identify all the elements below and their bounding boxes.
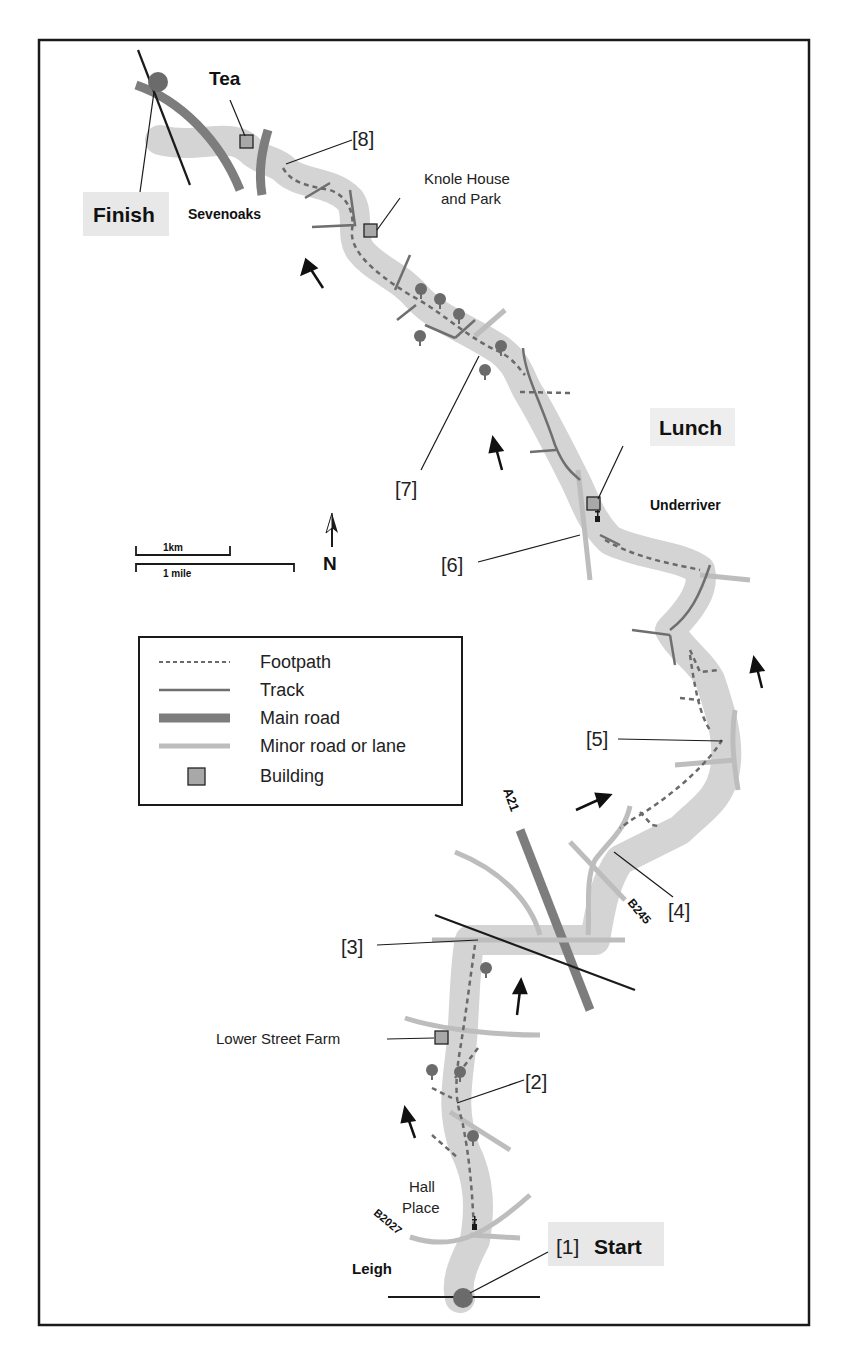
knole-label-line1: Knole House xyxy=(424,170,510,187)
start-label: Start xyxy=(594,1235,642,1258)
start-marker xyxy=(453,1288,473,1308)
building-icon-farm xyxy=(435,1031,448,1044)
waypoint-8: [8] xyxy=(352,128,374,150)
waypoint-7: [7] xyxy=(395,478,417,500)
leigh-label: Leigh xyxy=(352,1260,392,1277)
legend-label: Building xyxy=(260,766,324,786)
waypoint-2: [2] xyxy=(525,1071,547,1093)
scale-km-label: 1km xyxy=(163,542,183,553)
finish-label: Finish xyxy=(93,203,155,226)
start-waypoint-number: [1] xyxy=(556,1235,579,1258)
waypoint-5: [5] xyxy=(586,728,608,750)
legend-label: Main road xyxy=(260,708,340,728)
lunch-label: Lunch xyxy=(659,416,722,439)
legend: Footpath Track Main road Minor road or l… xyxy=(139,637,462,805)
hall-place-label-line1: Hall xyxy=(409,1178,435,1195)
building-icon-knole xyxy=(364,224,377,237)
walking-route-map: Finish Tea Sevenoaks Knole House and Par… xyxy=(0,0,846,1362)
knole-label-line2: and Park xyxy=(441,190,502,207)
legend-label: Track xyxy=(260,680,305,700)
waypoint-3: [3] xyxy=(341,936,363,958)
waypoint-6: [6] xyxy=(441,554,463,576)
legend-label: Footpath xyxy=(260,652,331,672)
hall-place-label-line2: Place xyxy=(402,1199,440,1216)
waypoint-4: [4] xyxy=(668,900,690,922)
finish-marker xyxy=(148,72,168,92)
underriver-label: Underriver xyxy=(650,497,721,513)
legend-label: Minor road or lane xyxy=(260,736,406,756)
legend-building-symbol xyxy=(188,768,205,785)
north-label: N xyxy=(323,553,337,574)
building-icon-tea xyxy=(240,135,253,148)
sevenoaks-label: Sevenoaks xyxy=(188,206,261,222)
scale-mile-label: 1 mile xyxy=(163,568,192,579)
tea-label: Tea xyxy=(209,68,241,89)
lower-street-farm-label: Lower Street Farm xyxy=(216,1030,340,1047)
